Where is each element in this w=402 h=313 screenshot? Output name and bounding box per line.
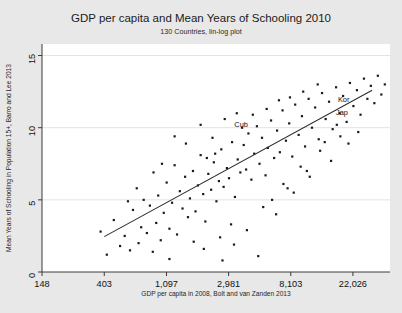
scatter-point [155, 222, 157, 224]
scatter-point [293, 192, 295, 194]
scatter-point [203, 248, 205, 250]
scatter-point [113, 219, 115, 221]
y-tick-label-5: 5 [27, 201, 37, 206]
gdp-schooling-scatter-plot: GDP per capita and Mean Years of Schooli… [0, 0, 402, 313]
scatter-point [161, 163, 163, 165]
scatter-point [193, 241, 195, 243]
scatter-point [223, 186, 225, 188]
scatter-point [179, 190, 181, 192]
scatter-point [224, 118, 226, 120]
scatter-point [157, 194, 159, 196]
scatter-point [306, 170, 308, 172]
scatter-point [192, 170, 194, 172]
scatter-point [335, 86, 337, 88]
x-tick-label-8103: 8,103 [279, 279, 302, 289]
x-tick-label-1097: 1,097 [155, 279, 178, 289]
scatter-point [168, 228, 170, 230]
scatter-point [373, 102, 375, 104]
scatter-point [213, 161, 215, 163]
scatter-point [221, 259, 223, 261]
scatter-point [136, 187, 138, 189]
scatter-point [300, 166, 302, 168]
x-tick-label-403: 403 [97, 279, 112, 289]
scatter-point [285, 140, 287, 142]
scatter-point [261, 137, 263, 139]
scatter-point [317, 83, 319, 85]
scatter-point [218, 180, 220, 182]
scatter-point [377, 75, 379, 77]
scatter-point [309, 176, 311, 178]
scatter-point [324, 141, 326, 143]
scatter-point [271, 199, 273, 201]
scatter-point [129, 249, 131, 251]
scatter-point [185, 142, 187, 144]
annotation-label-jap: Jap [336, 108, 348, 117]
y-tick-label-15: 15 [27, 54, 37, 64]
scatter-point [137, 242, 139, 244]
scatter-point [250, 179, 252, 181]
scatter-point [245, 168, 247, 170]
scatter-point [211, 137, 213, 139]
scatter-point [363, 78, 365, 80]
scatter-point [100, 230, 102, 232]
scatter-point [339, 135, 341, 137]
scatter-point [282, 183, 284, 185]
scatter-point [143, 199, 145, 201]
scatter-point [152, 171, 154, 173]
scatter-point [207, 173, 209, 175]
scatter-point [264, 174, 266, 176]
scatter-point [174, 164, 176, 166]
x-tick-label-2981: 2,981 [217, 279, 240, 289]
scatter-point [308, 98, 310, 100]
scatter-point [278, 99, 280, 101]
scatter-point [294, 104, 296, 106]
scatter-point [214, 153, 216, 155]
scatter-point [243, 144, 245, 146]
scatter-point [204, 220, 206, 222]
scatter-point [124, 235, 126, 237]
scatter-point [171, 202, 173, 204]
scatter-point [366, 98, 368, 100]
y-axis-title: Mean Years of Schooling in Population 15… [5, 64, 13, 252]
scatter-point [270, 119, 272, 121]
scatter-point [276, 129, 278, 131]
scatter-point [352, 105, 354, 107]
scatter-point [189, 197, 191, 199]
x-axis-title: GDP per capita in 2008, Bolt and van Zan… [141, 290, 291, 298]
scatter-point [275, 213, 277, 215]
scatter-point [336, 124, 338, 126]
scatter-point [176, 233, 178, 235]
scatter-point [330, 160, 332, 162]
plot-area-background [42, 44, 390, 272]
chart-title: GDP per capita and Mean Years of Schooli… [71, 12, 331, 24]
scatter-point [231, 141, 233, 143]
scatter-point [160, 239, 162, 241]
scatter-point [149, 205, 151, 207]
scatter-point [273, 157, 275, 159]
scatter-point [332, 128, 334, 130]
scatter-point [219, 236, 221, 238]
scatter-point [328, 101, 330, 103]
scatter-point [289, 96, 291, 98]
scatter-point [210, 189, 212, 191]
scatter-point [262, 206, 264, 208]
scatter-point [359, 114, 361, 116]
scatter-point [357, 131, 359, 133]
chart-subtitle: 130 Countries, lin-log plot [160, 27, 242, 36]
scatter-point [247, 132, 249, 134]
scatter-point [318, 138, 320, 140]
scatter-point [174, 135, 176, 137]
y-tick-label-10: 10 [27, 126, 37, 136]
scatter-point [301, 115, 303, 117]
scatter-point [356, 89, 358, 91]
scatter-point [194, 210, 196, 212]
scatter-point [215, 200, 217, 202]
scatter-point [314, 106, 316, 108]
scatter-point [127, 200, 129, 202]
scatter-point [220, 148, 222, 150]
scatter-point [184, 176, 186, 178]
scatter-point [380, 93, 382, 95]
scatter-point [236, 112, 238, 114]
scatter-point [230, 223, 232, 225]
scatter-point [258, 163, 260, 165]
